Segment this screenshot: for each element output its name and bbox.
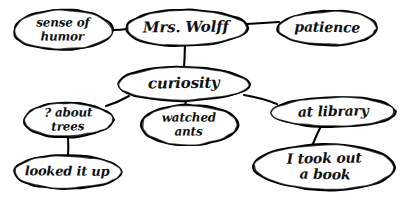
edge-sense-of-humor-to-mrs-wolff xyxy=(113,29,126,30)
node-i-took-out-a-book[interactable]: I took outa book xyxy=(253,144,395,190)
node-q-about-trees[interactable]: ? abouttrees xyxy=(24,103,114,138)
node-curiosity[interactable]: curiosity xyxy=(118,67,250,101)
node-patience[interactable]: patience xyxy=(277,11,377,46)
node-label-mrs-wolff: Mrs. Wolff xyxy=(142,17,232,36)
node-label-patience: patience xyxy=(294,18,360,35)
node-label-looked-it-up: looked it up xyxy=(25,163,110,179)
concept-map-svg: sense ofhumorMrs. Wolffpatiencecuriosity… xyxy=(0,0,408,204)
node-label-watched-ants-line-1: watched xyxy=(162,110,217,124)
concept-map-canvas: sense ofhumorMrs. Wolffpatiencecuriosity… xyxy=(0,0,408,204)
nodes-layer: sense ofhumorMrs. Wolffpatiencecuriosity… xyxy=(14,10,396,191)
edge-mrs-wolff-to-patience xyxy=(247,22,279,24)
node-mrs-wolff[interactable]: Mrs. Wolff xyxy=(126,10,248,46)
node-at-library[interactable]: at library xyxy=(271,97,396,127)
node-label-i-took-out-a-book-line-2: a book xyxy=(299,165,351,182)
node-label-sense-of-humor-line-2: humor xyxy=(40,29,85,43)
node-watched-ants[interactable]: watchedants xyxy=(141,105,238,146)
node-label-q-about-trees-line-2: trees xyxy=(51,119,85,133)
edge-mrs-wolff-to-curiosity xyxy=(184,44,185,68)
node-looked-it-up[interactable]: looked it up xyxy=(14,155,121,188)
node-label-watched-ants-line-2: ants xyxy=(175,124,203,138)
node-sense-of-humor[interactable]: sense ofhumor xyxy=(14,10,113,50)
node-label-q-about-trees-line-1: ? about xyxy=(44,105,93,119)
node-label-at-library: at library xyxy=(298,102,370,119)
node-label-i-took-out-a-book-line-1: I took out xyxy=(285,149,362,166)
node-label-curiosity: curiosity xyxy=(148,73,221,92)
edge-curiosity-to-at-library xyxy=(244,95,277,104)
node-label-sense-of-humor-line-1: sense of xyxy=(36,15,91,29)
edge-curiosity-to-q-about-trees xyxy=(106,96,129,106)
